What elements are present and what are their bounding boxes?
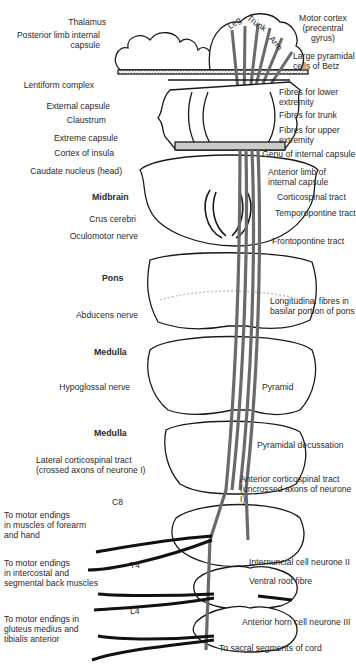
label-thalamus: Thalamus <box>68 17 106 27</box>
label-fibres-trunk: Fibres for trunk <box>279 110 337 120</box>
label-ventral-root: Ventral root fibre <box>249 576 312 586</box>
segment-l4: L4 <box>130 606 140 616</box>
label-motor-endings-gluteus: To motor endings in gluteus medius and t… <box>4 614 79 644</box>
label-posterior-limb: Posterior limb internal capsule <box>17 30 100 50</box>
label-sacral: To sacral segments of cord <box>219 643 322 653</box>
label-betz-cells: Large pyramidal cells of Betz <box>293 51 355 71</box>
label-pyramidal-decussation: Pyramidal decussation <box>257 440 343 450</box>
label-cortex-insula: Cortex of insula <box>54 148 114 158</box>
label-lateral-cst: Lateral corticospinal tract (crossed axo… <box>36 455 145 475</box>
label-fibres-lower: Fibres for lower extremity <box>279 87 338 107</box>
label-motor-endings-intercostal: To motor endings in intercostal and segm… <box>4 558 98 588</box>
label-temporopontine: Temporopontine tract <box>275 208 356 218</box>
pons-section <box>148 253 317 329</box>
heading-medulla-upper: Medulla <box>94 347 127 357</box>
label-anterior-horn: Anterior horn cell neurone III <box>242 617 350 627</box>
label-motor-endings-forearm: To motor endings in muscles of forearm a… <box>4 510 86 540</box>
label-external-capsule: External capsule <box>46 101 110 111</box>
label-oculomotor: Oculomotor nerve <box>70 231 138 241</box>
heading-medulla-lower: Medulla <box>94 428 127 438</box>
label-anterior-limb: Anterior limb of internal capsule <box>268 167 328 187</box>
label-corticospinal-tract: Corticospinal tract <box>277 192 346 202</box>
label-anterior-cst: Anterior corticospinal tract (uncrossed … <box>240 474 356 504</box>
segment-t4: T4 <box>130 560 140 570</box>
label-motor-cortex: Motor cortex (precentral gyrus) <box>290 13 356 43</box>
label-claustrum: Claustrum <box>67 115 106 125</box>
label-pyramid: Pyramid <box>262 382 294 392</box>
label-abducens: Abducens nerve <box>76 310 138 320</box>
label-genu: Genu of internal capsule <box>262 149 355 159</box>
label-caudate: Caudate nucleus (head) <box>30 166 122 176</box>
segment-c8: C8 <box>112 497 123 507</box>
label-extreme-capsule: Extreme capsule <box>54 133 118 143</box>
label-fibres-upper: Fibres for upper extremity <box>279 125 340 145</box>
label-internuncial: Internuncial cell neurone II <box>249 557 350 567</box>
heading-midbrain: Midbrain <box>92 192 129 202</box>
label-longitudinal-fibres: Longitudinal fibres in basilar portion o… <box>270 296 355 316</box>
label-lentiform: Lentiform complex <box>24 80 94 90</box>
label-hypoglossal: Hypoglossal nerve <box>59 382 130 392</box>
heading-pons: Pons <box>102 273 124 283</box>
label-crus-cerebri: Crus cerebri <box>89 214 136 224</box>
label-frontopontine: Frontopontine tract <box>272 236 344 246</box>
